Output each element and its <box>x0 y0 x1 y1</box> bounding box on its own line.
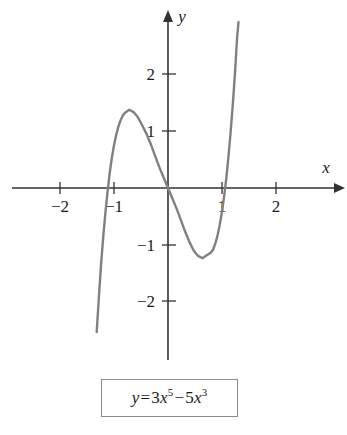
y-tick-label-2: 2 <box>147 65 156 84</box>
y-tick-label-minus1: −1 <box>137 236 155 255</box>
equation-coefficient-2: 5 <box>185 388 194 407</box>
equation-equals: = <box>139 388 151 407</box>
x-axis-label: x <box>321 158 330 177</box>
y-axis-label: y <box>176 7 186 26</box>
equation-caption-box: y=3x5−5x3 <box>101 379 238 417</box>
equation-coefficient-1: 3 <box>151 388 160 407</box>
function-plot: −2 −1 1 2 2 1 −1 −2 x y <box>0 0 347 435</box>
equation-variable-1: x <box>160 388 168 407</box>
x-axis-arrowhead <box>334 183 345 193</box>
y-axis-arrowhead <box>163 10 173 22</box>
equation-text: y=3x5−5x3 <box>132 388 208 408</box>
x-axis <box>12 183 345 193</box>
graph-figure: −2 −1 1 2 2 1 −1 −2 x y y=3x5−5x3 <box>0 0 347 435</box>
x-tick-label-2: 2 <box>272 197 281 216</box>
y-tick-label-minus2: −2 <box>137 292 155 311</box>
equation-variable-2: x <box>194 388 202 407</box>
equation-operator: − <box>173 388 185 407</box>
x-tick-label-minus2: −2 <box>51 197 69 216</box>
equation-exponent-2: 3 <box>202 386 208 398</box>
